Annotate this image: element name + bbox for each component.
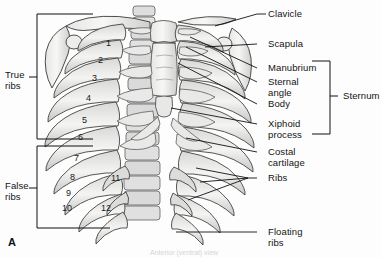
rib-number-11: 11	[111, 173, 120, 183]
rib-number-7: 7	[74, 153, 79, 163]
label-sternal-angle: Sternal angle	[268, 77, 299, 98]
thoracic-cage-figure: True ribs False ribs Sternum Clavicle Sc…	[0, 0, 381, 258]
panel-letter-a: A	[8, 236, 16, 248]
label-manubrium: Manubrium	[268, 63, 316, 74]
bracket-label-false-ribs: False ribs	[5, 181, 29, 202]
rib-number-2: 2	[98, 55, 103, 65]
rib-number-8: 8	[70, 172, 75, 182]
rib-number-10: 10	[62, 203, 72, 213]
label-ribs: Ribs	[268, 173, 287, 184]
label-xiphoid-process: Xiphoid process	[268, 119, 302, 140]
bracket-label-sternum: Sternum	[343, 91, 380, 102]
rib-number-6: 6	[78, 132, 83, 142]
skeleton-illustration	[0, 0, 381, 258]
bracket-label-true-ribs: True ribs	[5, 70, 25, 91]
label-scapula: Scapula	[268, 39, 303, 50]
rib-number-4: 4	[86, 93, 91, 103]
label-body: Body	[268, 99, 290, 110]
label-costal-cartilage: Costal cartilage	[268, 147, 305, 168]
label-clavicle: Clavicle	[268, 9, 302, 20]
rib-number-12: 12	[101, 203, 111, 213]
rib-number-9: 9	[66, 188, 71, 198]
label-floating-ribs: Floating ribs	[268, 227, 303, 248]
rib-number-3: 3	[92, 73, 97, 83]
rib-number-5: 5	[82, 115, 87, 125]
rib-number-1: 1	[106, 38, 111, 48]
figure-caption-faint: Anterior (ventral) view	[150, 249, 218, 256]
